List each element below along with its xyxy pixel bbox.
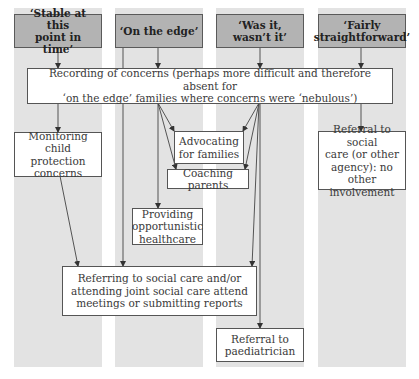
header-label: ‘Stable at this point in time’: [18, 7, 98, 55]
node-referral-to-paediatrician: Referral to paediatrician: [216, 328, 304, 362]
node-label: Advocating for families: [179, 135, 239, 160]
node-label: Referring to social care and/or attendin…: [71, 272, 248, 310]
node-label: Providing opportunistic healthcare: [132, 208, 203, 246]
header-label: ‘Was it, wasn’t it’: [220, 19, 300, 43]
node-label: Referral to paediatrician: [225, 333, 295, 358]
node-label: Recording of concerns (perhaps more diff…: [31, 67, 389, 105]
node-label: Coaching parents: [171, 167, 245, 192]
node-monitoring-child-protection: Monitoring child protection concerns: [14, 132, 102, 177]
header-label: ‘On the edge’: [120, 25, 199, 37]
header-stable-at-this-point-in-time: ‘Stable at this point in time’: [14, 14, 102, 48]
node-providing-opportunistic-healthcare: Providing opportunistic healthcare: [132, 208, 203, 245]
node-label: Monitoring child protection concerns: [18, 130, 98, 180]
node-referring-to-social-care: Referring to social care and/or attendin…: [62, 266, 257, 316]
header-label: ‘Fairly straightforward’: [314, 19, 410, 43]
node-coaching-parents: Coaching parents: [167, 169, 249, 189]
header-fairly-straightforward: ‘Fairly straightforward’: [318, 14, 406, 48]
header-on-the-edge: ‘On the edge’: [115, 14, 203, 48]
node-recording-of-concerns: Recording of concerns (perhaps more diff…: [27, 68, 393, 104]
node-label: Referral to social care (or other agency…: [322, 123, 402, 198]
header-was-it-wasnt-it: ‘Was it, wasn’t it’: [216, 14, 304, 48]
node-referral-to-social-care: Referral to social care (or other agency…: [318, 131, 406, 190]
node-advocating-for-families: Advocating for families: [174, 131, 244, 164]
